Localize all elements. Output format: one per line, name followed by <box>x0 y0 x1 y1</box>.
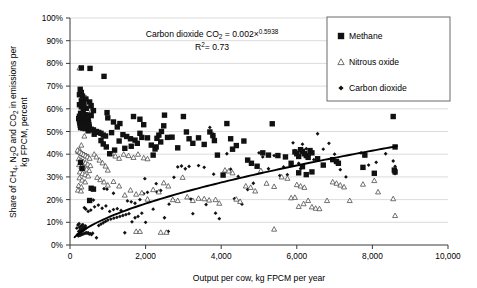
data-point-filled-square <box>392 169 397 174</box>
data-point-filled-square <box>88 103 93 108</box>
data-point-filled-square <box>152 146 157 151</box>
data-point-filled-square <box>212 138 217 143</box>
ylabel-part-c: O and CO <box>8 114 18 153</box>
annot-eq-prefix: Carbon dioxide CO <box>146 29 219 39</box>
y-tick-label: 20% <box>46 195 63 205</box>
data-point-filled-square <box>135 141 140 146</box>
data-point-filled-square <box>309 169 314 174</box>
data-point-filled-square <box>161 123 166 128</box>
data-point-filled-square <box>101 74 106 79</box>
data-point-filled-square <box>104 110 109 115</box>
data-point-filled-square <box>115 124 120 129</box>
data-point-filled-square <box>98 138 103 143</box>
x-tick-label: 10,000 <box>435 251 461 261</box>
data-point-filled-square <box>288 161 293 166</box>
data-point-filled-square <box>109 130 114 135</box>
data-point-filled-square <box>145 135 150 140</box>
data-point-filled-square <box>220 172 225 177</box>
annot-eq-mid: = 0.002× <box>222 29 258 39</box>
ylabel-part-a: Share of CH <box>8 171 18 218</box>
data-point-filled-square <box>116 138 121 143</box>
scatter-chart-svg: 0%10%20%30%40%50%60%70%80%90%100% 02,000… <box>0 0 477 288</box>
legend-label-methane: Methane <box>349 31 383 41</box>
data-point-filled-square <box>215 152 220 157</box>
data-point-filled-square <box>321 162 326 167</box>
y-tick-label: 80% <box>46 58 63 68</box>
data-point-filled-square <box>224 121 229 126</box>
data-point-filled-square <box>336 161 341 166</box>
data-point-filled-square <box>201 142 206 147</box>
data-point-filled-square <box>249 161 254 166</box>
data-point-filled-square <box>296 154 301 159</box>
ylabel-part-b: , N <box>8 156 18 167</box>
y-tick-label: 10% <box>46 217 63 227</box>
ylabel-line2: kg FPCM, percent <box>19 97 29 167</box>
data-point-filled-square <box>254 164 259 169</box>
data-point-filled-square <box>283 154 288 159</box>
y-tick-label: 60% <box>46 104 63 114</box>
data-point-filled-square <box>105 115 110 120</box>
data-point-filled-square <box>372 171 377 176</box>
legend-marker-filled-square <box>338 33 344 39</box>
data-point-filled-square <box>184 129 189 134</box>
chart-figure: 0%10%20%30%40%50%60%70%80%90%100% 02,000… <box>0 0 477 288</box>
legend: MethaneNitrous oxideCarbon dioxide <box>327 17 450 101</box>
data-point-filled-square <box>112 147 117 152</box>
data-point-filled-square <box>275 153 280 158</box>
data-point-filled-square <box>190 141 195 146</box>
data-point-filled-square <box>309 150 314 155</box>
data-point-filled-square <box>296 170 301 175</box>
annot-r2-value: = 0.73 <box>205 42 229 52</box>
data-point-filled-square <box>87 198 92 203</box>
data-point-filled-square <box>210 133 215 138</box>
data-point-filled-square <box>131 114 136 119</box>
data-point-filled-square <box>150 152 155 157</box>
data-point-filled-square <box>266 152 271 157</box>
legend-label-nitrous-oxide: Nitrous oxide <box>349 57 399 67</box>
y-tick-label: 90% <box>46 36 63 46</box>
y-tick-label: 70% <box>46 81 63 91</box>
y-tick-label: 30% <box>46 172 63 182</box>
y-tick-label: 40% <box>46 149 63 159</box>
data-point-filled-square <box>234 143 239 148</box>
y-tick-label: 100% <box>42 13 64 23</box>
data-point-filled-square <box>78 160 83 165</box>
data-point-filled-square <box>196 135 201 140</box>
data-point-filled-square <box>181 114 186 119</box>
data-point-filled-square <box>139 135 144 140</box>
y-tick-label: 0% <box>51 240 64 250</box>
x-tick-label: 4,000 <box>211 251 232 261</box>
data-point-filled-square <box>270 121 275 126</box>
svg-text:Share of CH4, N2O and CO2 in e: Share of CH4, N2O and CO2 in emissions p… <box>8 46 19 218</box>
ylabel-part-d: in emissions per <box>8 46 18 111</box>
data-point-filled-square <box>107 151 112 156</box>
data-point-filled-square <box>137 117 142 122</box>
data-point-filled-square <box>141 122 146 127</box>
data-point-filled-square <box>304 172 309 177</box>
x-tick-label: 2,000 <box>135 251 156 261</box>
data-point-filled-square <box>129 144 134 149</box>
data-point-filled-square <box>87 66 92 71</box>
data-point-filled-square <box>241 138 246 143</box>
x-tick-label: 8,000 <box>362 251 383 261</box>
x-tick-label: 0 <box>68 251 73 261</box>
data-point-filled-square <box>79 65 84 70</box>
data-point-filled-square <box>360 165 365 170</box>
annot-eq-exponent: 0.5938 <box>259 28 279 35</box>
data-point-filled-square <box>122 146 127 151</box>
data-point-filled-square <box>260 150 265 155</box>
data-point-filled-square <box>85 128 90 133</box>
data-point-filled-square <box>175 145 180 150</box>
svg-text:R2= 0.73: R2= 0.73 <box>195 41 229 53</box>
data-point-filled-square <box>390 114 395 119</box>
data-point-filled-square <box>91 132 96 137</box>
x-axis-title: Output per cow, kg FPCM per year <box>193 273 325 283</box>
x-tick-label: 6,000 <box>286 251 307 261</box>
data-point-filled-square <box>154 136 159 141</box>
data-point-filled-square <box>111 119 116 124</box>
data-point-filled-square <box>91 186 96 191</box>
data-point-filled-square <box>162 112 167 117</box>
data-point-filled-square <box>91 108 96 113</box>
data-point-filled-square <box>228 136 233 141</box>
y-tick-label: 50% <box>46 127 63 137</box>
